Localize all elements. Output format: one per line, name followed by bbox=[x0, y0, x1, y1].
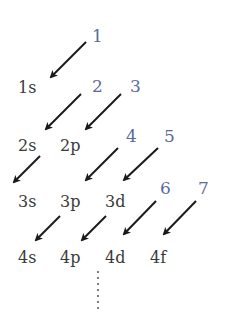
arrow-4d bbox=[164, 201, 196, 234]
orbital-3p: 3p bbox=[60, 194, 80, 210]
orbital-3d: 3d bbox=[105, 194, 125, 210]
arrow-4b bbox=[82, 216, 106, 240]
orbital-2s: 2s bbox=[18, 138, 36, 154]
arrows-layer bbox=[0, 0, 232, 326]
orbital-4f: 4f bbox=[150, 250, 166, 266]
orbital-4s: 4s bbox=[18, 250, 36, 266]
order-number-2: 2 bbox=[92, 78, 103, 95]
arrow-3c bbox=[124, 148, 158, 180]
orbital-4d: 4d bbox=[105, 250, 125, 266]
arrow-4c bbox=[124, 201, 156, 234]
arrow-1 bbox=[51, 42, 86, 77]
arrow-2a bbox=[46, 94, 81, 129]
orbital-4p: 4p bbox=[60, 250, 80, 266]
order-number-4: 4 bbox=[126, 128, 137, 145]
orbital-2p: 2p bbox=[60, 138, 80, 154]
order-number-1: 1 bbox=[92, 28, 103, 45]
orbital-3s: 3s bbox=[18, 194, 36, 210]
arrow-3a bbox=[14, 156, 40, 182]
orbital-1s: 1s bbox=[18, 80, 36, 96]
arrow-2b bbox=[86, 94, 121, 129]
vertical-ellipsis bbox=[97, 271, 99, 309]
order-number-6: 6 bbox=[160, 180, 171, 197]
order-number-3: 3 bbox=[130, 78, 141, 95]
order-number-5: 5 bbox=[164, 128, 175, 145]
arrow-3b bbox=[86, 148, 118, 180]
order-number-7: 7 bbox=[198, 180, 209, 197]
arrow-4a bbox=[36, 216, 60, 240]
